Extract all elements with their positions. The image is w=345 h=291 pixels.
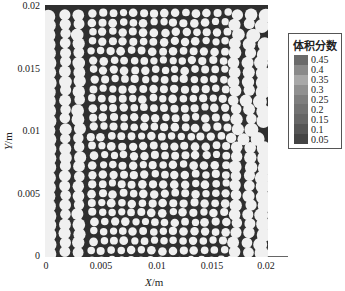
colorbar <box>294 55 308 144</box>
x-tick: 0.01 <box>148 261 166 271</box>
x-tick: 0 <box>44 261 49 271</box>
y-tick: 0.015 <box>18 64 41 74</box>
x-tick: 0.02 <box>257 261 275 271</box>
y-tick: 0.005 <box>18 189 41 199</box>
y-tick: 0.01 <box>23 126 41 136</box>
y-axis-label: Y/m <box>2 132 14 150</box>
colorbar-label: 0.05 <box>311 135 329 145</box>
y-tick: 0 <box>35 251 40 261</box>
x-tick: 0.015 <box>201 261 224 271</box>
y-tick: 0.02 <box>23 1 41 11</box>
axis-tail <box>268 256 288 257</box>
particle-field <box>45 5 268 257</box>
colorbar-legend: 体积分数 0.45 0.4 0.35 0.3 0.25 0.2 0.15 0.1… <box>288 33 342 149</box>
x-tick: 0.005 <box>90 261 113 271</box>
x-axis-label: X/m <box>145 276 163 288</box>
plot-area <box>45 5 268 257</box>
legend-title: 体积分数 <box>289 37 341 53</box>
